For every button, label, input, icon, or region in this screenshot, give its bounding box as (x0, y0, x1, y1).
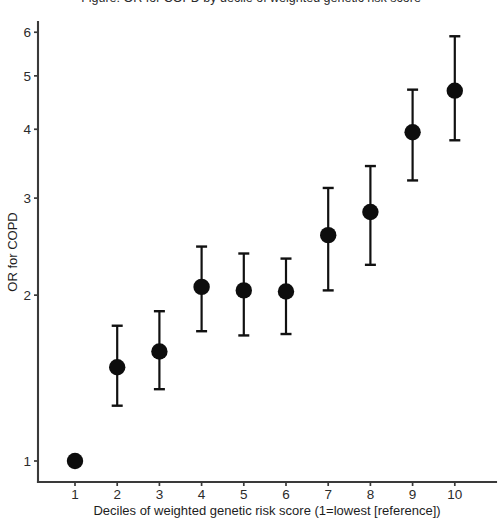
figure-container: Figure: OR for COPD by decile of weighte… (0, 0, 502, 522)
x-tick-label: 3 (156, 487, 164, 502)
x-tick-label: 4 (198, 487, 206, 502)
x-tick-label: 2 (113, 487, 121, 502)
y-axis-title: OR for COPD (5, 212, 20, 291)
data-point-marker (193, 279, 209, 295)
x-tick-label: 10 (447, 487, 462, 502)
x-axis-title: Deciles of weighted genetic risk score (… (93, 503, 440, 518)
x-tick-label: 7 (324, 487, 332, 502)
data-point-marker (320, 227, 336, 243)
data-point-marker (362, 204, 378, 220)
data-point-marker (67, 453, 83, 469)
x-tick-label: 6 (282, 487, 290, 502)
markers-group (67, 82, 463, 469)
data-point-marker (278, 283, 294, 299)
x-tick-label: 5 (240, 487, 248, 502)
data-point-marker (151, 343, 167, 359)
axis-labels-group: OR for COPDDeciles of weighted genetic r… (5, 212, 441, 518)
y-tick-label: 6 (23, 25, 31, 40)
y-tick-label: 4 (23, 122, 31, 137)
y-tick-label: 5 (23, 69, 31, 84)
x-tick-label: 8 (367, 487, 375, 502)
axes-group: 12345612345678910 (23, 22, 496, 502)
x-tick-label: 1 (71, 487, 79, 502)
data-point-marker (404, 124, 420, 140)
data-point-marker (447, 82, 463, 98)
scatter-plot: 12345612345678910 OR for COPDDeciles of … (0, 0, 502, 522)
data-point-marker (236, 282, 252, 298)
y-tick-label: 1 (23, 454, 31, 469)
data-point-marker (109, 359, 125, 375)
y-tick-label: 3 (23, 191, 31, 206)
y-tick-label: 2 (23, 288, 31, 303)
x-tick-label: 9 (409, 487, 417, 502)
